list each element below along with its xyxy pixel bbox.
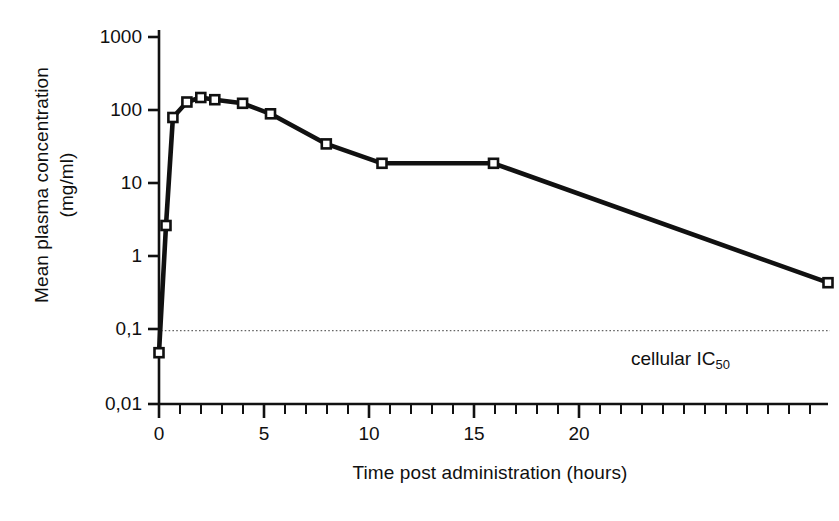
cellular-ic50-annotation-subscript: 50 xyxy=(715,357,729,372)
data-point-marker xyxy=(182,98,191,107)
data-point-marker xyxy=(322,139,331,148)
cellular-ic50-annotation: cellular IC50 xyxy=(631,348,730,370)
data-point-marker xyxy=(168,113,177,122)
cellular-ic50-annotation-text: cellular IC xyxy=(631,348,715,369)
data-point-marker xyxy=(238,99,247,108)
y-axis-title-line-2: (mg/ml) xyxy=(54,35,79,335)
data-point-marker xyxy=(824,278,833,287)
y-axis-title: Mean plasma concentration (mg/ml) xyxy=(29,35,79,335)
data-point-marker xyxy=(210,95,219,104)
x-axis-minor-ticks xyxy=(180,404,810,414)
data-point-marker xyxy=(196,93,205,102)
data-series-line xyxy=(159,98,828,353)
x-tick-label-10: 10 xyxy=(339,423,399,445)
data-point-marker xyxy=(266,109,275,118)
data-point-marker xyxy=(378,159,387,168)
x-tick-label-5: 5 xyxy=(234,423,294,445)
x-tick-label-15: 15 xyxy=(444,423,504,445)
x-tick-label-0: 0 xyxy=(129,423,189,445)
chart-figure: 1000 100 10 1 0,1 0,01 0 5 10 15 20 Mean… xyxy=(0,0,839,521)
data-point-marker xyxy=(162,221,171,230)
data-point-marker xyxy=(489,159,498,168)
data-series-markers xyxy=(155,93,833,357)
y-axis-title-line-1: Mean plasma concentration xyxy=(29,35,54,335)
y-tick-label-0-01: 0,01 xyxy=(54,393,142,415)
data-point-marker xyxy=(155,348,164,357)
x-axis-title: Time post administration (hours) xyxy=(160,462,820,484)
x-tick-label-20: 20 xyxy=(549,423,609,445)
